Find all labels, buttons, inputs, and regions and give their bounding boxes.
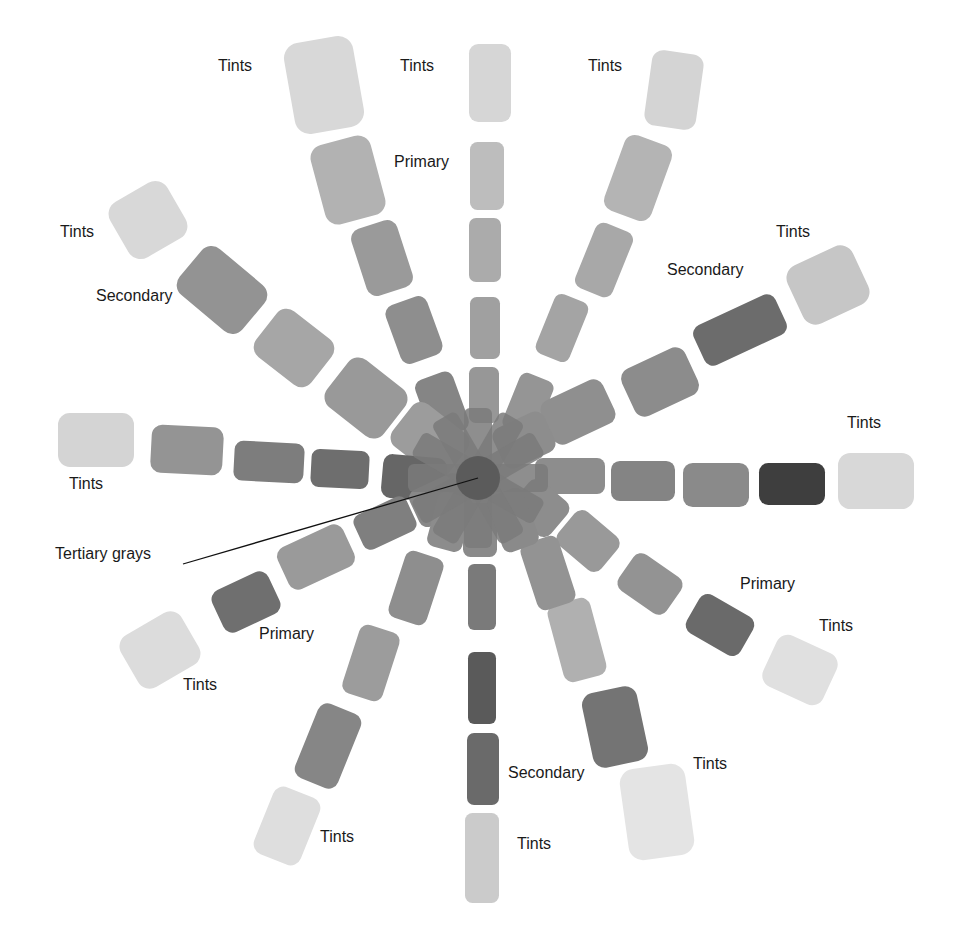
paint-swatch: [292, 700, 365, 791]
paint-swatch: [150, 424, 224, 476]
label-tints: Tints: [218, 58, 252, 74]
paint-swatch: [233, 440, 305, 484]
paint-swatch: [351, 494, 420, 553]
paint-swatch: [340, 622, 402, 703]
paint-swatch: [348, 217, 415, 298]
paint-swatch: [782, 241, 874, 329]
paint-swatch: [465, 813, 499, 903]
label-tints: Tints: [400, 58, 434, 74]
label-secondary: Secondary: [96, 288, 173, 304]
paint-swatch: [310, 449, 370, 490]
label-secondary: Secondary: [667, 262, 744, 278]
label-tints: Tints: [183, 677, 217, 693]
paint-swatch: [386, 549, 446, 628]
paint-swatch: [690, 291, 790, 369]
label-tints: Tints: [60, 224, 94, 240]
label-tertiary-grays: Tertiary grays: [55, 546, 151, 562]
label-primary: Primary: [259, 626, 314, 642]
paint-swatch: [250, 783, 323, 868]
paint-swatch: [470, 142, 504, 210]
paint-swatch: [249, 304, 340, 393]
label-tints: Tints: [693, 756, 727, 772]
paint-swatch: [468, 652, 496, 724]
paint-swatch: [838, 453, 914, 509]
paint-swatch: [282, 34, 367, 137]
paint-swatch: [611, 461, 675, 501]
paint-swatch: [572, 220, 635, 300]
label-tints: Tints: [69, 476, 103, 492]
label-tints: Tints: [776, 224, 810, 240]
paint-swatch: [533, 292, 590, 365]
paint-swatch: [469, 218, 501, 282]
paint-swatch: [307, 132, 388, 227]
paint-swatch: [682, 590, 758, 659]
paint-swatch: [617, 344, 702, 421]
paint-swatch: [469, 44, 511, 122]
paint-swatch: [467, 733, 499, 805]
paint-swatch: [383, 293, 446, 366]
paint-swatch: [171, 241, 272, 340]
paint-swatch: [683, 463, 749, 507]
label-tints: Tints: [819, 618, 853, 634]
paint-swatch: [545, 596, 608, 685]
paint-swatch: [758, 631, 841, 710]
label-primary: Primary: [394, 154, 449, 170]
label-tints: Tints: [847, 415, 881, 431]
paint-swatch: [468, 564, 496, 630]
paint-swatch: [58, 413, 134, 467]
paint-swatch: [580, 684, 651, 770]
color-wheel-figure: TintsTintsTintsPrimaryTintsSecondaryTint…: [0, 0, 967, 933]
paint-swatch: [614, 549, 687, 618]
paint-swatch: [759, 463, 825, 505]
spoke-bottom: [463, 503, 499, 903]
paint-swatch: [274, 521, 359, 593]
paint-swatch: [470, 297, 500, 359]
spoke-right: [535, 453, 914, 509]
paint-swatch: [643, 49, 705, 131]
paint-swatch: [618, 762, 696, 862]
label-secondary: Secondary: [508, 765, 585, 781]
spoke-top: [469, 44, 511, 423]
swatch-layer: [0, 0, 967, 933]
paint-swatch: [103, 176, 192, 264]
label-tints: Tints: [320, 829, 354, 845]
label-tints: Tints: [588, 58, 622, 74]
paint-swatch: [601, 132, 675, 224]
label-tints: Tints: [517, 836, 551, 852]
label-primary: Primary: [740, 576, 795, 592]
